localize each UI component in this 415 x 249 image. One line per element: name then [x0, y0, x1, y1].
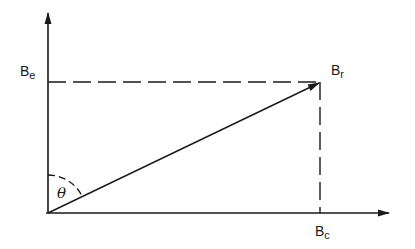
label-br-sub: r [340, 68, 344, 80]
label-bc: Bc [315, 224, 330, 241]
label-br: Br [331, 63, 344, 80]
label-theta: θ [57, 186, 66, 201]
label-bc-sub: c [324, 229, 330, 241]
label-br-main: B [331, 62, 340, 78]
resultant-vector [48, 83, 319, 213]
label-be-main: B [20, 63, 29, 79]
label-be: Be [20, 64, 35, 81]
vector-diagram [0, 0, 415, 249]
label-bc-main: B [315, 223, 324, 239]
label-be-sub: e [29, 69, 35, 81]
